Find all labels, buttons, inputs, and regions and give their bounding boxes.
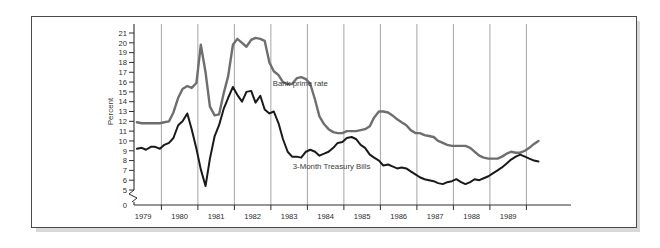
line-chart: 567891011121314151617181920210 197919801… [31, 16, 637, 228]
y-axis-tick-label: 17 [119, 68, 127, 77]
y-axis-tick-label: 19 [119, 48, 127, 57]
x-axis-tick-label: 1984 [317, 212, 334, 221]
series-line [137, 87, 539, 186]
y-axis-tick-label: 9 [123, 147, 127, 156]
x-axis-tick-label: 1981 [208, 212, 225, 221]
series-annotation-label: 3-Month Treasury Bills [293, 162, 371, 171]
y-axis-tick-label: 14 [119, 97, 127, 106]
y-axis-zero-label: 0 [123, 201, 127, 210]
y-axis-break-symbol [129, 190, 137, 202]
annotations-group: Bank prime rate3-Month Treasury Bills [273, 79, 371, 171]
y-axis-tick-label: 10 [119, 137, 127, 146]
x-axis-tick-label: 1983 [281, 212, 298, 221]
x-axis-tick-label: 1987 [427, 212, 444, 221]
y-axis-tick-label: 20 [119, 39, 127, 48]
series-annotation-label: Bank prime rate [273, 79, 328, 88]
x-axis-tick-label: 1989 [500, 212, 517, 221]
x-axis-tick-label: 1988 [463, 212, 480, 221]
figure-root: 567891011121314151617181920210 197919801… [0, 0, 660, 248]
x-axis-tick-label: 1980 [171, 212, 188, 221]
y-axis-tick-label: 15 [119, 88, 127, 97]
y-axis-tick-label: 16 [119, 78, 127, 87]
y-axis-tick-label: 11 [119, 127, 127, 136]
x-axis-title: Year [339, 227, 356, 228]
x-axis-tick-label: 1985 [354, 212, 371, 221]
x-axis-group: 1979198019811982198319841985198619871988… [134, 205, 571, 221]
series-line [137, 38, 539, 159]
y-axis-tick-label: 5 [123, 186, 127, 195]
y-axis-tick-label: 12 [119, 117, 127, 126]
y-axis-tick-label: 8 [123, 156, 127, 165]
y-axis-tick-label: 6 [123, 176, 127, 185]
y-axis-group: 567891011121314151617181920210 [119, 24, 137, 210]
y-axis-tick-label: 18 [119, 58, 127, 67]
x-axis-tick-label: 1986 [390, 212, 407, 221]
x-axis-tick-label: 1982 [244, 212, 261, 221]
y-axis-tick-label: 21 [119, 29, 127, 38]
y-axis-tick-label: 13 [119, 107, 127, 116]
y-axis-tick-label: 7 [123, 166, 127, 175]
x-axis-tick-label: 1979 [135, 212, 152, 221]
y-axis-title: Percent [106, 97, 115, 125]
